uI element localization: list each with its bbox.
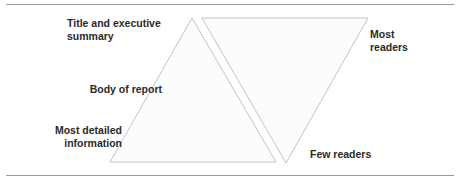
bottom-rule xyxy=(6,175,454,176)
label-most-readers: Most readers xyxy=(370,28,430,54)
label-most-detailed-information: Most detailed information xyxy=(54,124,122,150)
label-few-readers: Few readers xyxy=(310,148,390,161)
label-title-executive-summary: Title and executive summary xyxy=(67,17,177,43)
label-body-of-report: Body of report xyxy=(72,83,162,96)
